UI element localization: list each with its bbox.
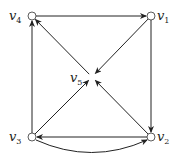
edge-v3-v5: [35, 81, 89, 135]
label-v2: v2: [157, 129, 169, 146]
node-v2: [147, 133, 155, 141]
label-v5: v5: [70, 70, 82, 87]
node-v5: [88, 73, 96, 81]
edge-v3-v2: [36, 140, 147, 153]
nodes: v1v2v3v4v5: [9, 8, 169, 146]
graph-canvas: v1v2v3v4v5: [0, 0, 180, 163]
node-v1: [147, 12, 155, 20]
edges: [32, 16, 151, 153]
node-v3: [28, 133, 36, 141]
edge-v5-v4: [36, 20, 90, 75]
edge-v1-v5: [95, 19, 148, 74]
label-v1: v1: [157, 8, 169, 25]
label-v4: v4: [9, 8, 21, 25]
edge-v2-v5: [96, 81, 149, 135]
label-v3: v3: [9, 129, 21, 146]
node-v4: [28, 12, 36, 20]
graph-diagram: v1v2v3v4v5: [0, 0, 180, 163]
